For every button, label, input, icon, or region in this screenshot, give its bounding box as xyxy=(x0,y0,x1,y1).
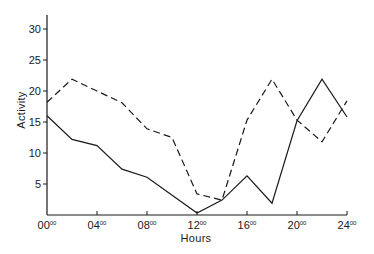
x-tick-label: 0800 xyxy=(138,219,158,231)
x-tick-label: 0400 xyxy=(88,219,108,231)
y-tick-label: 30 xyxy=(29,23,41,35)
y-tick-label: 25 xyxy=(29,54,41,66)
y-tick-label: 15 xyxy=(29,116,41,128)
axes xyxy=(47,15,347,215)
y-tick-label: 5 xyxy=(35,178,41,190)
x-tick-label: 2000 xyxy=(288,219,308,231)
axis-ticks: 510152025300000040008001200160020002400 xyxy=(29,23,357,231)
x-tick-label: 2400 xyxy=(338,219,358,231)
y-axis-label: Activity xyxy=(15,91,27,128)
activity-line-chart: 510152025300000040008001200160020002400 … xyxy=(0,0,374,254)
x-tick-label: 0000 xyxy=(38,219,58,231)
series-dashed-line xyxy=(47,79,347,200)
x-axis-label: Hours xyxy=(181,232,212,244)
data-series xyxy=(47,79,347,213)
y-tick-label: 20 xyxy=(29,85,41,97)
x-tick-label: 1600 xyxy=(238,219,258,231)
y-tick-label: 10 xyxy=(29,147,41,159)
x-tick-label: 1200 xyxy=(188,219,208,231)
